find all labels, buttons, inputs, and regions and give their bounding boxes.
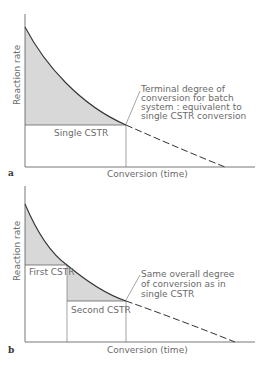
annotation-line-4: single CSTR conversion — [141, 111, 246, 121]
region-label-first-cstr: First CSTR — [29, 267, 75, 277]
y-axis-label: Reaction rate — [12, 44, 22, 105]
panel-letter-a: a — [8, 168, 14, 178]
x-axis-label: Conversion (time) — [107, 345, 188, 355]
shaded-area-single-cstr — [25, 27, 126, 125]
region-label-single-cstr: Single CSTR — [54, 128, 108, 138]
region-label-second-cstr: Second CSTR — [71, 305, 131, 315]
panel-a: Single CSTR Terminal degree of conversio… — [8, 14, 255, 179]
annotation-line-1: Same overall degree — [141, 269, 235, 279]
shaded-area-second-cstr — [67, 265, 126, 301]
annotation-line-3: single CSTR — [141, 289, 194, 299]
annotation-pointer — [126, 275, 140, 300]
x-axis-label: Conversion (time) — [107, 169, 188, 179]
panel-b: First CSTR Second CSTR Same overall degr… — [8, 186, 255, 355]
cstr-diagram: Single CSTR Terminal degree of conversio… — [0, 0, 270, 368]
annotation-line-2: of conversion as in — [141, 279, 226, 289]
annotation-pointer — [126, 91, 140, 124]
rate-curve-extension — [126, 301, 235, 342]
shaded-area-first-cstr — [25, 204, 67, 265]
rate-curve-extension — [126, 125, 225, 167]
panel-letter-b: b — [8, 345, 14, 355]
y-axis-label: Reaction rate — [12, 220, 22, 281]
